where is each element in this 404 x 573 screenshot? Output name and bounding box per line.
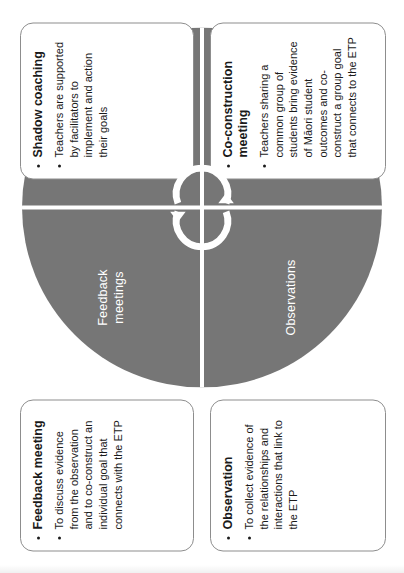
callout-heading: Feedback meeting <box>31 412 46 540</box>
callout-shadow-coaching: Shadow coaching Teachers are supported b… <box>20 22 194 179</box>
callout-list: Feedback meeting To discuss evidence fro… <box>31 412 125 540</box>
callout-heading: Shadow coaching <box>31 35 46 168</box>
cycle-arrows-icon <box>159 164 245 250</box>
callout-body: To discuss evidence from the observation… <box>52 412 125 540</box>
wheel-segment-label: Feedback meetings <box>96 269 127 326</box>
callout-observation: Observation To collect evidence of the r… <box>210 399 386 551</box>
diagram-canvas: Feedback meeting To discuss evidence fro… <box>0 0 404 573</box>
wheel-segment-label: Observations <box>284 259 300 335</box>
callout-co-construction-meeting: Co-construction meeting Teachers sharing… <box>210 22 386 179</box>
callout-body: Teachers are supported by facilitators t… <box>52 35 111 168</box>
callout-body: To collect evidence of the relationships… <box>242 412 301 540</box>
callout-list: Observation To collect evidence of the r… <box>221 412 301 540</box>
callout-list: Co-construction meeting Teachers sharing… <box>221 35 359 168</box>
callout-body: Teachers sharing a common group of stude… <box>257 35 359 168</box>
callout-list: Shadow coaching Teachers are supported b… <box>31 35 111 168</box>
callout-heading: Co-construction meeting <box>221 35 251 168</box>
callout-feedback-meeting: Feedback meeting To discuss evidence fro… <box>20 399 194 551</box>
callout-heading: Observation <box>221 412 236 540</box>
